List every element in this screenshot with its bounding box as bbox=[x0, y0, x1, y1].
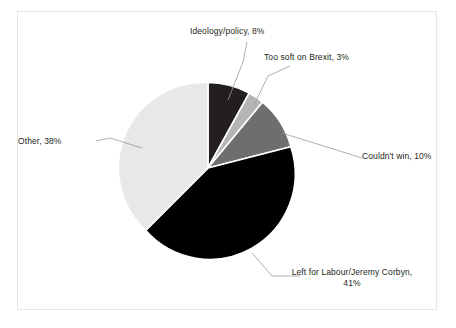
pie-label-labour-line2: 41% bbox=[343, 278, 360, 288]
leader-line-couldnt-win bbox=[282, 133, 362, 158]
pie-label-left-for-labour-jeremy-corbyn: Left for Labour/Jeremy Corbyn, 41% bbox=[272, 267, 432, 289]
pie-label-other: Other, 38% bbox=[18, 136, 62, 147]
pie-chart-figure: Ideology/policy, 8% Too soft on Brexit, … bbox=[0, 0, 456, 328]
pie-slices bbox=[118, 82, 295, 259]
pie-label-ideology-policy: Ideology/policy, 8% bbox=[190, 26, 265, 37]
pie-label-labour-line1: Left for Labour/Jeremy Corbyn, bbox=[292, 267, 413, 277]
pie-label-too-soft-on-brexit: Too soft on Brexit, 3% bbox=[264, 52, 349, 63]
pie-label-couldnt-win: Couldn't win, 10% bbox=[362, 151, 431, 162]
